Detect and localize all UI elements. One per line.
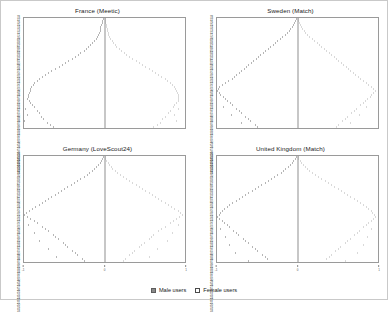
plot-area [23,17,186,129]
x-tick-mark [185,265,186,267]
plot-area [23,155,186,263]
center-axis [104,18,105,128]
bar-female [298,128,334,129]
y-axis-ticks: 7877767574737271706968676665646362616059… [1,155,22,263]
panel-grid: France (Meetic) 787776757473727170696867… [1,3,387,279]
legend: Male users Female users [1,287,387,293]
y-axis-ticks: 7877767574737271706968676665646362616059… [1,17,22,129]
x-tick-mark [297,265,298,267]
x-axis-ticks: -101 [23,265,186,275]
bar-row [24,128,185,129]
bar-male [87,262,105,263]
panel-germany: Germany (LoveScout24) 787776757473727170… [1,141,194,279]
x-tick-label: 1 [378,265,380,272]
panel-title: France (Meetic) [1,7,194,15]
center-axis [297,156,298,262]
bar-half-male [217,262,298,263]
panel-france: France (Meetic) 787776757473727170696867… [1,3,194,141]
panel-title: Sweden (Match) [194,7,387,15]
bar-half-male [24,128,105,129]
bar-female [298,262,323,263]
panel-title: Germany (LoveScout24) [1,145,194,153]
legend-label-female: Female users [203,287,237,293]
x-tick-mark [378,265,379,267]
bar-female [105,262,122,263]
legend-swatch-male-icon [151,288,156,293]
bar-male [260,128,297,129]
x-tick-label: 0 [297,265,299,272]
y-axis-ticks: 7877767574737271706968676665646362616059… [194,155,215,263]
bar-half-female [105,262,186,263]
bar-male [56,128,104,129]
x-tick-mark [22,265,23,267]
x-axis-ticks: -101 [216,265,379,275]
bar-half-female [298,128,379,129]
x-tick-label: 0 [104,265,106,272]
bar-row [24,262,185,263]
bar-half-female [105,128,186,129]
bar-female [105,128,152,129]
panel-title: United Kingdom (Match) [194,145,387,153]
x-tick-label: -1 [215,265,218,272]
y-axis-ticks: 7877767574737271706968676665646362616059… [194,17,215,129]
bar-half-male [24,262,105,263]
x-tick-label: -1 [22,265,25,272]
center-axis [297,18,298,128]
plot-area [216,17,379,129]
bar-row [217,262,378,263]
bar-row [217,128,378,129]
bar-half-female [298,262,379,263]
bar-half-male [217,128,298,129]
x-tick-mark [104,265,105,267]
legend-item-female: Female users [195,287,237,293]
center-axis [104,156,105,262]
panel-united-kingdom: United Kingdom (Match) 78777675747372717… [194,141,387,279]
bar-male [272,262,298,263]
legend-label-male: Male users [159,287,186,293]
x-tick-label: 1 [185,265,187,272]
x-tick-mark [215,265,216,267]
plot-area [216,155,379,263]
legend-swatch-female-icon [195,288,200,293]
legend-item-male: Male users [151,287,186,293]
panel-sweden: Sweden (Match) 7877767574737271706968676… [194,3,387,141]
